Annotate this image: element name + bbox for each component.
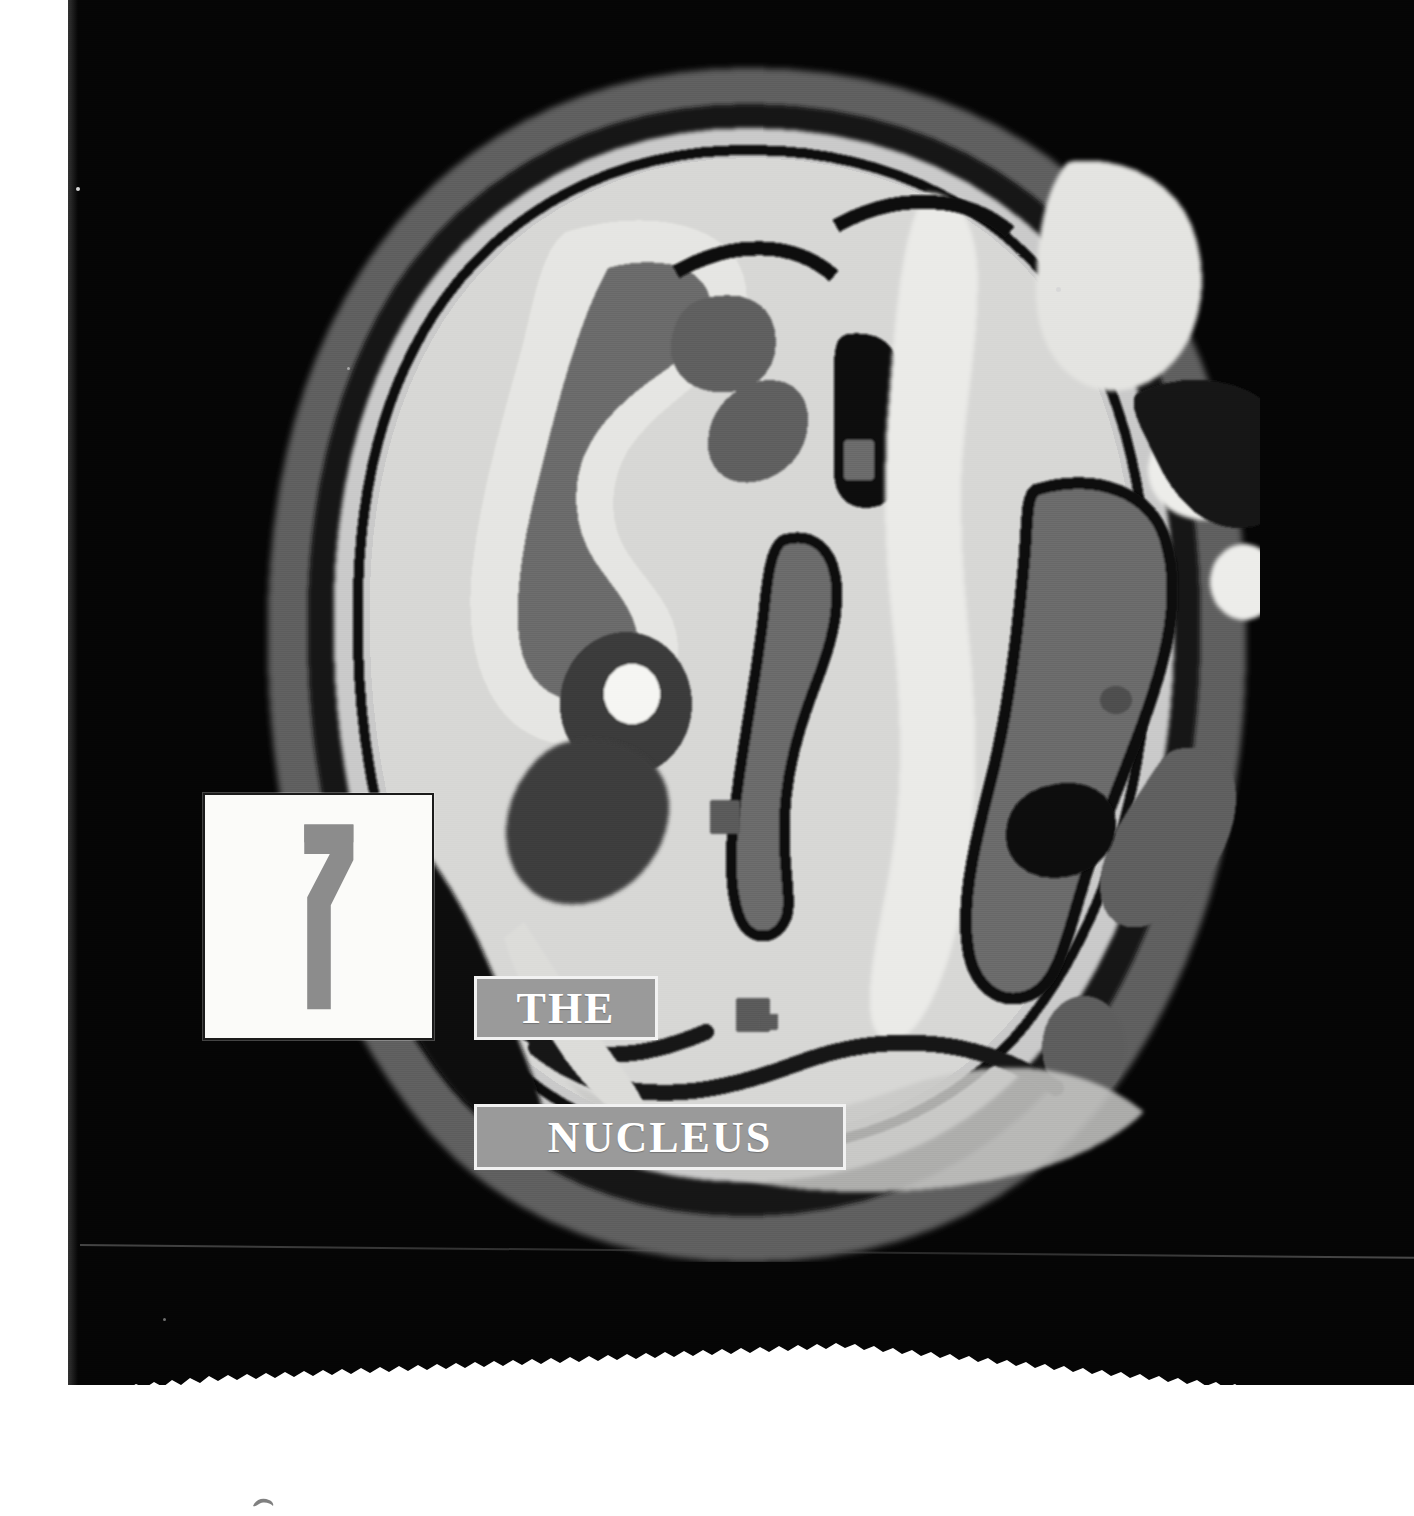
chapter-title-line-2: NUCLEUS	[474, 1104, 846, 1170]
page-left-edge-fade	[68, 0, 78, 1385]
chapter-number-plate: 7	[203, 793, 434, 1040]
chapter-opener-page: 7 THE NUCLEUS	[0, 0, 1414, 1516]
paper-below-tear	[0, 1400, 1414, 1516]
chapter-numeral: 7	[205, 795, 432, 1038]
chapter-title-line-1: THE	[474, 976, 658, 1040]
brain-scan-image	[236, 42, 1260, 1262]
